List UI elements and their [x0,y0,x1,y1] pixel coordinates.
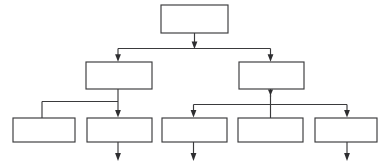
node-l2-e[interactable] [315,118,377,142]
node-l1-a[interactable] [86,62,152,89]
diagram-svg [0,0,386,167]
node-root[interactable] [161,5,228,33]
connector-node-l2-e-exit [344,142,350,161]
node-l2-b[interactable] [87,118,152,142]
node-l1-b[interactable] [239,62,304,89]
connector-root-to-bus1 [192,33,198,49]
connector-bus1-to-node-l1-b [268,49,274,62]
node-l2-c[interactable] [162,118,227,142]
hierarchy-diagram-canvas [0,0,386,167]
connector-node-l2-c-exit [191,142,197,161]
connector-bus3-to-node-l2-e [344,105,350,118]
connector-node-l1-b-to-bus3 [268,89,273,118]
connector-bus3-to-node-l2-c [191,105,197,118]
node-l2-a[interactable] [13,118,75,142]
connector-node-l2-b-exit [115,142,121,161]
connector-node-l1-a-to-bus2 [115,89,121,118]
node-l2-d[interactable] [238,118,303,142]
connector-bus1-to-node-l1-a [115,49,121,62]
